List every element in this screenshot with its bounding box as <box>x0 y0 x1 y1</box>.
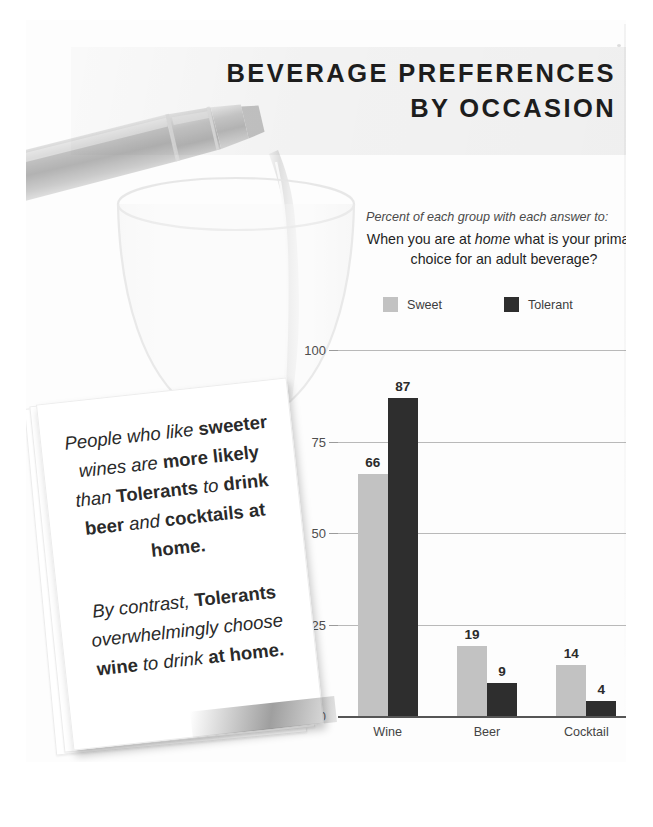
bar-value-label: 87 <box>395 379 410 394</box>
cp2-s1: By contrast, <box>91 590 195 622</box>
callout-paragraph-1: People who like sweeter wines are more l… <box>58 406 286 573</box>
cp2-b3: at home. <box>207 638 285 667</box>
chart-legend: Sweet Tolerant <box>383 297 573 312</box>
bar-groups: 6687Wine199Beer144Cocktail <box>338 350 626 716</box>
bar-value-label: 4 <box>598 682 606 697</box>
legend-item-tolerant: Tolerant <box>504 297 573 312</box>
x-axis-label-beer: Beer <box>437 725 536 739</box>
x-axis-label-wine: Wine <box>338 725 437 739</box>
tick-stub-50 <box>329 533 338 534</box>
question-emphasis: home <box>475 231 511 247</box>
bar-cocktail-tolerant: 4 <box>586 701 616 716</box>
x-axis-label-cocktail: Cocktail <box>537 725 626 739</box>
title-line-1: BEVERAGE PREFERENCES <box>227 59 617 87</box>
bar-group-wine: 6687Wine <box>338 350 437 716</box>
cp1-s4: to <box>197 474 225 498</box>
scanned-page: BEVERAGE PREFERENCES BY OCCASION Percent… <box>26 20 626 762</box>
legend-label-tolerant: Tolerant <box>528 298 573 312</box>
tick-stub-100 <box>329 350 338 351</box>
bar-beer-tolerant: 9 <box>487 683 517 716</box>
bar-beer-sweet: 19 <box>457 646 487 716</box>
tick-stub-25 <box>329 625 338 626</box>
cp1-s5: and <box>123 509 166 534</box>
cp1-b2: more likely <box>162 441 260 472</box>
cp2-s3: to drink <box>137 647 210 676</box>
page-title: BEVERAGE PREFERENCES BY OCCASION <box>196 56 616 126</box>
bar-group-beer: 199Beer <box>437 350 536 716</box>
bar-value-label: 19 <box>464 627 479 642</box>
bar-cocktail-sweet: 14 <box>556 665 586 716</box>
plot-area: 0255075100 6687Wine199Beer144Cocktail <box>338 350 626 718</box>
scan-speck <box>617 44 621 47</box>
cp1-b5: cocktails at home. <box>150 499 266 561</box>
cp2-b2: wine <box>96 654 139 679</box>
x-axis-line <box>338 716 626 718</box>
bar-value-label: 66 <box>365 455 380 470</box>
y-axis-tick-50: 50 <box>312 526 326 541</box>
cp1-s3: than <box>74 486 117 511</box>
question-part-1: When you are at <box>367 231 475 247</box>
legend-swatch-sweet <box>383 297 398 312</box>
callout-card: People who like sweeter wines are more l… <box>36 377 324 750</box>
bar-group-cocktail: 144Cocktail <box>537 350 626 716</box>
legend-swatch-tolerant <box>504 297 519 312</box>
callout-card-front: People who like sweeter wines are more l… <box>36 377 324 750</box>
bar-value-label: 14 <box>564 646 579 661</box>
cp1-b1: sweeter <box>197 411 268 439</box>
subtitle-lead: Percent of each group with each answer t… <box>366 208 626 226</box>
legend-item-sweet: Sweet <box>383 297 442 312</box>
title-line-2: BY OCCASION <box>196 91 616 126</box>
bar-value-label: 9 <box>498 664 506 679</box>
bar-chart: 0255075100 6687Wine199Beer144Cocktail <box>312 350 626 745</box>
survey-question: When you are at home what is your primar… <box>366 230 626 269</box>
bar-wine-tolerant: 87 <box>388 398 418 716</box>
bar-wine-sweet: 66 <box>358 474 388 716</box>
tick-stub-75 <box>329 442 338 443</box>
cp1-b3: Tolerants <box>115 477 199 507</box>
legend-label-sweet: Sweet <box>407 298 442 312</box>
scan-edge <box>624 24 626 744</box>
callout-paragraph-2: By contrast, Tolerants overwhelmingly ch… <box>76 575 298 685</box>
y-axis-tick-100: 100 <box>304 343 326 358</box>
cp1-s2: wines are <box>78 451 164 481</box>
subtitle-block: Percent of each group with each answer t… <box>366 208 626 269</box>
y-axis-tick-75: 75 <box>312 434 326 449</box>
callout-text: People who like sweeter wines are more l… <box>37 379 323 750</box>
cp2-b1: Tolerants <box>193 581 277 611</box>
